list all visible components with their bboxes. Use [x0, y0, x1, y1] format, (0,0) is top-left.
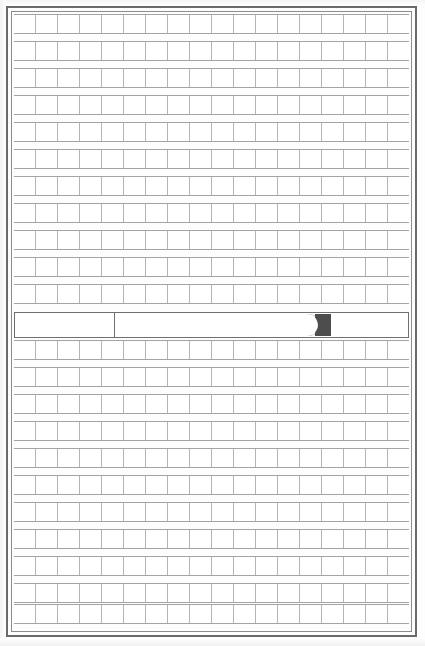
grid-cell	[344, 231, 366, 249]
grid-cell	[36, 530, 58, 548]
grid-cell	[190, 530, 212, 548]
grid-cell	[124, 123, 146, 141]
grid-cell	[234, 503, 256, 521]
grid-cell	[36, 42, 58, 60]
grid-cell	[36, 584, 58, 602]
grid-cell	[58, 204, 80, 222]
grid-cell	[102, 503, 124, 521]
grid-cell	[14, 449, 36, 467]
grid-cell	[168, 15, 190, 33]
grid-cell	[102, 449, 124, 467]
grid-cell	[300, 231, 322, 249]
grid-cell	[36, 204, 58, 222]
grid-cell	[124, 449, 146, 467]
grid-cell	[58, 449, 80, 467]
grid-cell	[322, 557, 344, 575]
grid-cell	[124, 258, 146, 276]
grid-cell	[366, 503, 388, 521]
grid-cell	[124, 341, 146, 359]
grid-cell	[14, 69, 36, 87]
grid-cell	[388, 96, 409, 114]
grid-cell	[256, 422, 278, 440]
grid-cell	[256, 605, 278, 623]
grid-cell	[212, 150, 234, 168]
grid-cell	[168, 449, 190, 467]
grid-cell	[124, 231, 146, 249]
grid-cell	[146, 258, 168, 276]
grid-cell	[344, 530, 366, 548]
grid-cell	[190, 395, 212, 413]
grid-cell	[190, 584, 212, 602]
grid-cell	[344, 258, 366, 276]
grid-cell	[146, 368, 168, 386]
grid-cell	[344, 341, 366, 359]
grid-cell	[168, 177, 190, 195]
grid-cell	[102, 368, 124, 386]
grid-row	[14, 502, 409, 522]
grid-cell	[168, 204, 190, 222]
grid-cell	[256, 150, 278, 168]
grid-cell	[58, 42, 80, 60]
grid-cell	[366, 476, 388, 494]
grid-cell	[322, 341, 344, 359]
grid-cell	[344, 395, 366, 413]
grid-cell	[366, 258, 388, 276]
grid-cell	[146, 395, 168, 413]
grid-cell	[146, 557, 168, 575]
grid-cell	[300, 584, 322, 602]
grid-cell	[190, 231, 212, 249]
band-divider-gap	[115, 313, 117, 337]
grid-cell	[102, 69, 124, 87]
grid-cell	[278, 476, 300, 494]
grid-cell	[190, 15, 212, 33]
grid-cell	[234, 422, 256, 440]
grid-cell	[344, 584, 366, 602]
grid-cell	[190, 341, 212, 359]
grid-cell	[388, 42, 409, 60]
grid-row	[14, 284, 409, 304]
band-crescent-marker	[315, 314, 331, 336]
grid-cell	[58, 96, 80, 114]
grid-cell	[300, 15, 322, 33]
grid-cell	[58, 258, 80, 276]
grid-cell	[80, 503, 102, 521]
grid-cell	[80, 605, 102, 623]
grid-cell	[344, 69, 366, 87]
grid-cell	[234, 341, 256, 359]
grid-cell	[322, 231, 344, 249]
grid-cell	[80, 177, 102, 195]
grid-cell	[300, 557, 322, 575]
grid-cell	[278, 15, 300, 33]
grid-cell	[168, 395, 190, 413]
grid-cell	[234, 123, 256, 141]
document-page	[0, 0, 425, 646]
grid-cell	[300, 69, 322, 87]
grid-cell	[322, 422, 344, 440]
grid-cell	[146, 123, 168, 141]
grid-cell	[322, 204, 344, 222]
grid-cell	[14, 557, 36, 575]
grid-cell	[14, 42, 36, 60]
grid-cell	[212, 258, 234, 276]
grid-cell	[212, 476, 234, 494]
grid-cell	[190, 204, 212, 222]
grid-cell	[146, 476, 168, 494]
grid-cell	[366, 69, 388, 87]
grid-cell	[124, 42, 146, 60]
grid-cell	[366, 449, 388, 467]
grid-cell	[212, 530, 234, 548]
grid-cell	[344, 15, 366, 33]
grid-cell	[300, 476, 322, 494]
grid-row	[14, 203, 409, 223]
grid-cell	[388, 395, 409, 413]
grid-row	[14, 176, 409, 196]
grid-cell	[344, 605, 366, 623]
grid-cell	[80, 530, 102, 548]
grid-cell	[344, 285, 366, 303]
grid-cell	[234, 150, 256, 168]
grid-cell	[322, 123, 344, 141]
grid-cell	[388, 285, 409, 303]
grid-cell	[234, 530, 256, 548]
grid-cell	[102, 150, 124, 168]
grid-cell	[366, 96, 388, 114]
